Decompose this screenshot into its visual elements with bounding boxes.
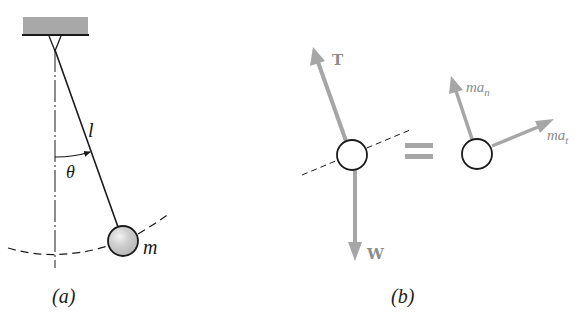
theta-label: θ [66, 162, 75, 182]
theta-angle-arc [55, 152, 90, 157]
weight-label: W [366, 245, 385, 263]
hinge-pivot [49, 36, 61, 51]
caption-b: (b) [391, 285, 415, 308]
tension-label: T [332, 51, 344, 69]
equals-sign [405, 143, 433, 159]
pendulum-string [55, 50, 118, 227]
free-body-particle [337, 140, 367, 170]
tangential-inertia-vector [492, 119, 554, 146]
panel-a: l θ m (a) [8, 17, 170, 308]
pendulum-diagram: l θ m (a) T W man [0, 0, 577, 320]
panel-b: T W man mat (b) [302, 47, 569, 308]
kinetic-diagram-particle [462, 139, 492, 169]
tangential-inertia-label: mat [547, 127, 569, 146]
length-label: l [88, 119, 94, 141]
normal-inertia-label: man [466, 79, 490, 98]
weight-vector [348, 170, 362, 261]
ceiling-support [23, 17, 88, 34]
mass-label: m [143, 236, 157, 258]
pendulum-bob [108, 226, 138, 256]
caption-a: (a) [52, 285, 76, 308]
